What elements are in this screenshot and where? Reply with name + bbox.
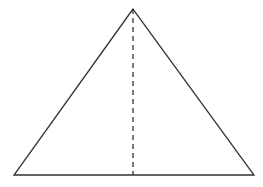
triangle-diagram: [0, 0, 263, 187]
triangle: [14, 9, 254, 175]
